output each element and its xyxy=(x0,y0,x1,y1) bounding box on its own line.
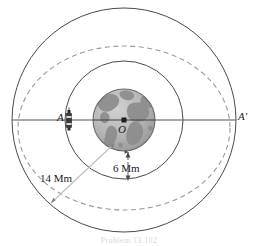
label-earth-radius: 6 Mm xyxy=(113,163,140,174)
label-center-o: O xyxy=(118,124,126,135)
label-orbit-radius: 14 Mm xyxy=(40,173,72,184)
figure-caption: Problem 13.102 xyxy=(0,236,258,245)
label-point-a-prime: A' xyxy=(238,111,247,122)
center-point-marker xyxy=(122,118,127,123)
label-point-a: A xyxy=(57,112,64,123)
diagram-canvas xyxy=(0,0,258,246)
satellite-icon xyxy=(67,108,72,131)
orbital-diagram-figure: A A' O 6 Mm 14 Mm Problem 13.102 xyxy=(0,0,258,246)
